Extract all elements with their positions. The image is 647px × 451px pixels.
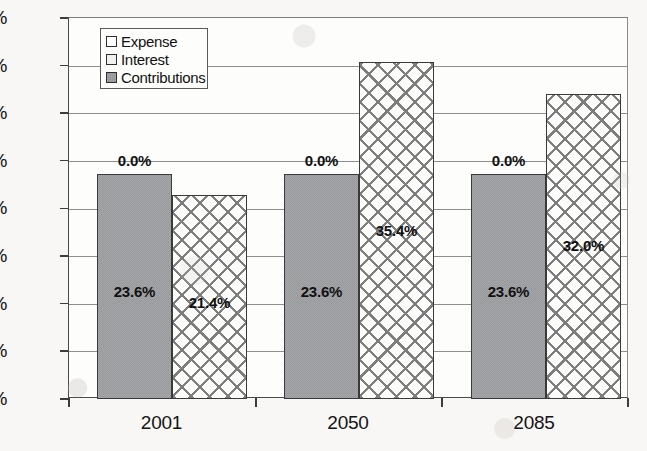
chart-page: 40% 35% 30% 25% 20% 15% 10% 5% 0% — [0, 0, 647, 451]
y-axis-tickmark-25 — [60, 160, 68, 162]
y-axis-tick-0: 0% — [0, 388, 7, 410]
legend-swatch-expense-icon — [106, 36, 117, 47]
x-axis-tickmark-3 — [627, 398, 629, 407]
gridline-30 — [69, 113, 627, 114]
y-axis-tick-10: 10% — [0, 293, 7, 315]
y-axis-tick-30: 30% — [0, 102, 7, 124]
y-axis-tick-35: 35% — [0, 55, 7, 77]
x-axis-tickmark-0 — [68, 398, 70, 407]
legend-item-interest[interactable]: Interest — [106, 50, 207, 68]
data-label-2050-interest: 35.4% — [359, 222, 434, 239]
legend-item-contributions[interactable]: Contributions — [106, 68, 207, 86]
data-label-2001-interest: 21.4% — [172, 294, 247, 311]
legend-swatch-contributions-icon — [106, 72, 117, 83]
y-axis-tickmark-10 — [60, 303, 68, 305]
x-axis-label-2001: 2001 — [68, 412, 255, 434]
legend-item-expense[interactable]: Expense — [106, 32, 207, 50]
x-axis-tickmark-1 — [255, 398, 257, 407]
legend-label-interest: Interest — [121, 52, 169, 67]
data-label-2085-expense: 0.0% — [471, 152, 546, 169]
y-axis-tick-15: 15% — [0, 245, 7, 267]
data-label-2085-interest: 32.0% — [546, 237, 621, 254]
legend-label-expense: Expense — [121, 34, 177, 49]
y-axis-tickmark-5 — [60, 350, 68, 352]
legend-swatch-interest-icon — [106, 54, 117, 65]
y-axis-tickmark-0 — [60, 398, 68, 400]
y-axis-tickmark-20 — [60, 208, 68, 210]
data-label-2050-contributions: 23.6% — [284, 283, 359, 300]
legend-label-contributions: Contributions — [121, 70, 205, 85]
x-axis-tickmark-2 — [441, 398, 443, 407]
y-axis-tick-40: 40% — [0, 7, 7, 29]
data-label-2001-contributions: 23.6% — [97, 283, 172, 300]
y-axis-tick-25: 25% — [0, 150, 7, 172]
data-label-2001-expense: 0.0% — [97, 152, 172, 169]
data-label-2050-expense: 0.0% — [284, 152, 359, 169]
data-label-2085-contributions: 23.6% — [471, 283, 546, 300]
y-axis-tick-5: 5% — [0, 340, 7, 362]
y-axis-tickmark-15 — [60, 255, 68, 257]
y-axis-tickmark-30 — [60, 112, 68, 114]
y-axis-tickmark-35 — [60, 65, 68, 67]
y-axis-tickmark-40 — [60, 17, 68, 19]
x-axis-label-2085: 2085 — [441, 412, 627, 434]
y-axis-tick-20: 20% — [0, 197, 7, 219]
x-axis-label-2050: 2050 — [255, 412, 441, 434]
chart-legend: Expense Interest Contributions — [100, 28, 208, 89]
